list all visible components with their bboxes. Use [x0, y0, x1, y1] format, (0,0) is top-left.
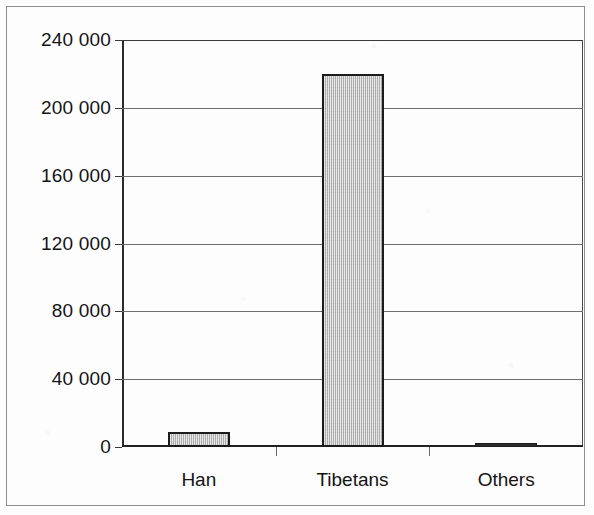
- y-axis-label: 0: [100, 436, 111, 458]
- x-axis-label-tibetans: Tibetans: [316, 469, 388, 491]
- y-axis-label: 120 000: [41, 233, 111, 255]
- y-axis-label: 200 000: [41, 97, 111, 119]
- x-tick: [429, 447, 430, 456]
- gridline-240000: [122, 40, 583, 41]
- y-tick-80000: [115, 311, 122, 312]
- y-axis-label: 160 000: [41, 165, 111, 187]
- y-tick-240000: [115, 40, 122, 41]
- x-tick: [276, 447, 277, 456]
- plot-area: 040 00080 000120 000160 000200 000240 00…: [122, 40, 583, 447]
- x-axis-label-han: Han: [181, 469, 216, 491]
- y-tick-0: [115, 447, 122, 448]
- y-axis-label: 80 000: [52, 300, 111, 322]
- y-tick-200000: [115, 108, 122, 109]
- bar-others: [475, 443, 537, 447]
- y-axis-label: 240 000: [41, 29, 111, 51]
- y-tick-160000: [115, 176, 122, 177]
- bar-han: [168, 432, 230, 447]
- y-tick-120000: [115, 244, 122, 245]
- chart-figure: 040 00080 000120 000160 000200 000240 00…: [0, 0, 594, 515]
- y-tick-40000: [115, 379, 122, 380]
- bar-tibetans: [322, 74, 384, 447]
- y-axis-label: 40 000: [52, 368, 111, 390]
- x-axis-label-others: Others: [478, 469, 535, 491]
